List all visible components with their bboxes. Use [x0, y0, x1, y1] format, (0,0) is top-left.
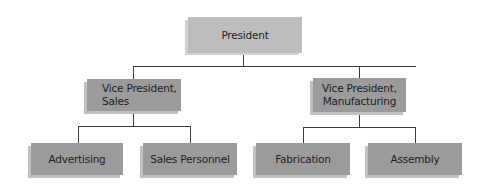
assembly-label: Assembly: [390, 153, 439, 166]
president-box: President: [188, 17, 302, 53]
vp-manufacturing-box: Vice President, Manufacturing: [313, 78, 406, 112]
vp-sales-title: Vice President,: [102, 82, 177, 95]
advertising-label: Advertising: [48, 153, 105, 166]
connector-to-sales-personnel: [190, 126, 191, 143]
advertising-box: Advertising: [31, 143, 123, 175]
vp-sales-label: Vice President, Sales: [102, 82, 177, 108]
sales-personnel-label: Sales Personnel: [150, 153, 230, 166]
connector-to-vp-sales: [133, 66, 134, 79]
connector-to-vp-manufacturing: [359, 66, 360, 78]
vp-sales-box: Vice President, Sales: [87, 79, 181, 111]
org-chart: President Vice President, Sales Vice Pre…: [0, 0, 488, 187]
connector-level1-horizontal: [133, 66, 416, 67]
vp-manufacturing-title: Vice President,: [322, 82, 397, 95]
vp-manufacturing-dept: Manufacturing: [322, 95, 397, 108]
connector-manufacturing-horizontal: [303, 127, 416, 128]
fabrication-box: Fabrication: [256, 143, 350, 175]
assembly-box: Assembly: [368, 143, 462, 175]
connector-sales-horizontal: [78, 126, 191, 127]
sales-personnel-box: Sales Personnel: [143, 143, 237, 175]
president-label: President: [221, 29, 268, 42]
vp-sales-dept: Sales: [102, 95, 177, 108]
fabrication-label: Fabrication: [275, 153, 331, 166]
connector-to-fabrication: [303, 127, 304, 143]
connector-to-assembly: [415, 127, 416, 143]
connector-to-advertising: [78, 126, 79, 143]
vp-manufacturing-label: Vice President, Manufacturing: [322, 82, 397, 108]
